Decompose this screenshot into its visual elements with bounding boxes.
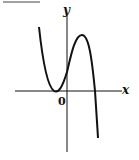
- origin-label: 0: [58, 96, 66, 107]
- cubic-graph: [0, 0, 139, 160]
- y-axis-label: y: [63, 4, 70, 16]
- cubic-curve: [39, 27, 98, 138]
- x-axis-label: x: [122, 84, 129, 96]
